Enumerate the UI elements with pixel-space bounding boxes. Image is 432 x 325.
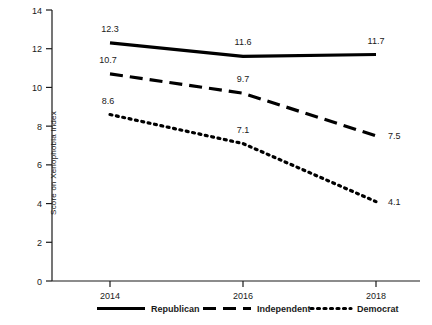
y-tick-label: 4 bbox=[37, 199, 42, 209]
y-axis-ticks: 02468101214 bbox=[32, 6, 52, 287]
x-tick-label: 2014 bbox=[100, 291, 120, 301]
data-label: 12.3 bbox=[101, 24, 119, 34]
x-axis-ticks: 201420162018 bbox=[100, 281, 386, 301]
y-tick-label: 2 bbox=[37, 238, 42, 248]
data-label: 11.6 bbox=[235, 37, 252, 47]
y-tick-label: 14 bbox=[32, 6, 42, 16]
y-tick-label: 10 bbox=[32, 83, 42, 93]
chart-plot: 02468101214 201420162018 12.311.611.710.… bbox=[0, 0, 432, 325]
data-label: 10.7 bbox=[99, 55, 117, 65]
chart-legend: RepublicanIndependentDemocrat bbox=[97, 304, 399, 314]
data-labels: 12.311.611.710.79.77.58.67.14.1 bbox=[99, 24, 400, 207]
y-tick-label: 12 bbox=[32, 44, 42, 54]
data-label: 4.1 bbox=[388, 197, 401, 207]
y-tick-label: 6 bbox=[37, 160, 42, 170]
data-label: 7.1 bbox=[237, 125, 250, 135]
legend-label: Republican bbox=[151, 304, 200, 314]
data-label: 11.7 bbox=[368, 36, 385, 46]
data-label: 9.7 bbox=[237, 74, 250, 84]
series-lines bbox=[110, 43, 376, 202]
data-label: 7.5 bbox=[388, 131, 401, 141]
legend-label: Democrat bbox=[357, 304, 399, 314]
x-tick-label: 2016 bbox=[233, 291, 253, 301]
y-tick-label: 8 bbox=[37, 122, 42, 132]
y-tick-label: 0 bbox=[37, 277, 42, 287]
x-tick-label: 2018 bbox=[366, 291, 386, 301]
data-label: 8.6 bbox=[102, 96, 115, 106]
legend-label: Independent bbox=[257, 304, 311, 314]
chart-container: Score on Xenophobia Index 02468101214 20… bbox=[0, 0, 432, 325]
